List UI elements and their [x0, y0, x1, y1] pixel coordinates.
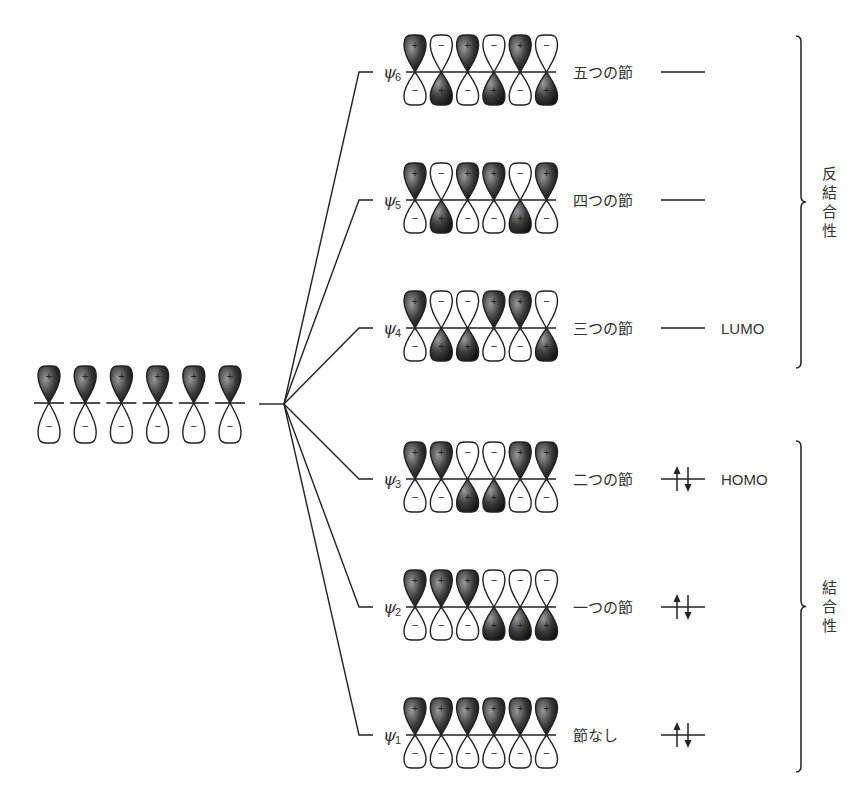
mo-row-psi1: ψ1+−+−+−+−+−+−節なし — [383, 698, 705, 768]
homo-label: HOMO — [721, 471, 768, 488]
phase-sign: − — [491, 747, 497, 759]
phase-sign: + — [543, 340, 549, 352]
p-orbital: +− — [219, 366, 241, 443]
phase-sign: − — [464, 619, 470, 631]
node-count-label: 二つの節 — [573, 471, 633, 489]
p-orbital: −+ — [536, 35, 558, 105]
phase-sign: − — [412, 747, 418, 759]
phase-sign: − — [543, 491, 549, 503]
phase-sign: + — [464, 340, 470, 352]
phase-sign: − — [517, 574, 523, 586]
phase-sign: + — [543, 167, 549, 179]
hexatriene-mo-diagram: +−+−+−+−+−+− ψ6+−−++−−++−−+五つの節ψ5+−−++−+… — [0, 0, 864, 805]
phase-sign: + — [438, 84, 444, 96]
p-orbital: +− — [183, 366, 205, 443]
phase-sign: + — [517, 702, 523, 714]
phase-sign: − — [491, 212, 497, 224]
node-count-label: 節なし — [573, 727, 618, 745]
phase-sign: + — [412, 446, 418, 458]
p-orbital: +− — [509, 442, 531, 512]
p-orbital: −+ — [483, 570, 505, 640]
p-orbital: +− — [110, 366, 132, 443]
phase-sign: + — [46, 370, 52, 382]
p-orbital: +− — [536, 163, 558, 233]
phase-sign: − — [464, 747, 470, 759]
psi-subscript: 4 — [395, 327, 401, 339]
bracket-label-char: 合 — [822, 203, 837, 221]
bracket-label-char: 性 — [822, 222, 837, 240]
p-orbital: +− — [483, 291, 505, 361]
mo-row-psi6: ψ6+−−++−−++−−+五つの節 — [383, 35, 705, 105]
p-orbital: −+ — [509, 163, 531, 233]
phase-sign: − — [438, 167, 444, 179]
node-count-label: 三つの節 — [573, 320, 633, 338]
phase-sign: + — [227, 370, 233, 382]
phase-sign: − — [517, 747, 523, 759]
phase-sign: + — [543, 619, 549, 631]
psi-subscript: 2 — [395, 606, 401, 618]
p-orbital: −+ — [509, 570, 531, 640]
phase-sign: − — [412, 491, 418, 503]
phase-sign: + — [438, 340, 444, 352]
phase-sign: + — [464, 39, 470, 51]
bracket-label-char: 結 — [822, 184, 837, 202]
phase-sign: + — [491, 702, 497, 714]
p-orbital: +− — [430, 570, 452, 640]
phase-sign: − — [82, 420, 88, 432]
phase-sign: − — [438, 491, 444, 503]
phase-sign: − — [438, 747, 444, 759]
p-orbital: −+ — [483, 35, 505, 105]
p-orbital: +− — [483, 163, 505, 233]
phase-sign: − — [491, 446, 497, 458]
phase-sign: − — [154, 420, 160, 432]
phase-sign: − — [491, 340, 497, 352]
phase-sign: + — [543, 446, 549, 458]
correlation-line — [284, 404, 373, 607]
phase-sign: − — [543, 574, 549, 586]
psi-subscript: 5 — [395, 199, 401, 211]
correlation-lines — [259, 72, 373, 735]
p-orbital: −+ — [536, 570, 558, 640]
mo-row-psi4: ψ4+−−+−++−+−−+三つの節LUMO — [383, 291, 764, 361]
p-orbital: +− — [457, 570, 479, 640]
atomic-p-orbitals: +−+−+−+−+−+− — [34, 366, 245, 443]
mo-row-psi3: ψ3+−+−−+−++−+−二つの節HOMO — [383, 442, 768, 512]
phase-sign: + — [118, 370, 124, 382]
p-orbital: +− — [74, 366, 96, 443]
phase-sign: + — [491, 491, 497, 503]
phase-sign: − — [543, 295, 549, 307]
phase-sign: − — [543, 747, 549, 759]
phase-sign: + — [464, 167, 470, 179]
correlation-line — [284, 404, 373, 735]
bracket-label-char: 合 — [822, 598, 837, 616]
correlation-line — [284, 200, 373, 404]
p-orbital: +− — [404, 442, 426, 512]
phase-sign: + — [464, 574, 470, 586]
p-orbital: +− — [38, 366, 60, 443]
p-orbital: −+ — [430, 35, 452, 105]
p-orbital: +− — [147, 366, 169, 443]
mo-row-psi2: ψ2+−+−+−−+−+−+一つの節 — [383, 570, 705, 640]
phase-sign: − — [464, 295, 470, 307]
phase-sign: + — [438, 446, 444, 458]
p-orbital: +− — [404, 570, 426, 640]
phase-sign: + — [517, 295, 523, 307]
p-orbital: +− — [483, 698, 505, 768]
phase-sign: − — [412, 340, 418, 352]
psi-subscript: 3 — [395, 478, 401, 490]
phase-sign: − — [46, 420, 52, 432]
antibonding-bracket: 反結合性 — [796, 36, 837, 368]
phase-sign: − — [438, 295, 444, 307]
node-count-label: 一つの節 — [573, 599, 633, 617]
phase-sign: + — [517, 446, 523, 458]
p-orbital: +− — [536, 442, 558, 512]
p-orbital: +− — [430, 698, 452, 768]
psi-subscript: 1 — [395, 734, 401, 746]
phase-sign: − — [517, 340, 523, 352]
phase-sign: + — [464, 491, 470, 503]
p-orbital: −+ — [483, 442, 505, 512]
curly-brace-icon — [796, 441, 806, 772]
phase-sign: − — [412, 619, 418, 631]
correlation-line — [284, 72, 373, 404]
phase-sign: + — [543, 84, 549, 96]
